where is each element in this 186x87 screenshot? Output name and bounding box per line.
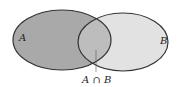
intersection-label: A ∩ B bbox=[82, 75, 111, 85]
set-b-label: B bbox=[160, 36, 167, 46]
set-a-label: A bbox=[19, 33, 26, 43]
